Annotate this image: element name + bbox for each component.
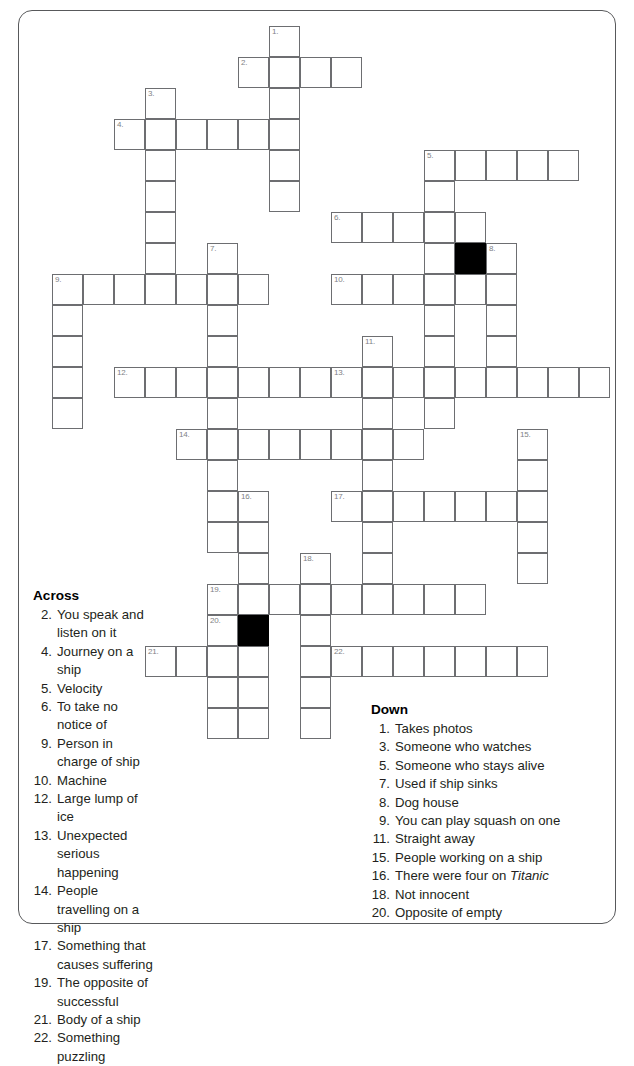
grid-cell[interactable] — [145, 119, 176, 150]
grid-cell[interactable] — [300, 429, 331, 460]
grid-cell[interactable] — [455, 367, 486, 398]
grid-cell[interactable]: 18. — [300, 553, 331, 584]
grid-cell[interactable] — [207, 336, 238, 367]
grid-cell[interactable] — [300, 584, 331, 615]
grid-cell[interactable]: 13. — [331, 367, 362, 398]
grid-cell[interactable] — [393, 584, 424, 615]
grid-cell[interactable]: 7. — [207, 243, 238, 274]
grid-cell[interactable] — [455, 212, 486, 243]
grid-cell[interactable] — [114, 274, 145, 305]
grid-cell[interactable]: 3. — [145, 88, 176, 119]
grid-cell[interactable] — [207, 119, 238, 150]
grid-cell[interactable] — [207, 522, 238, 553]
grid-cell[interactable] — [207, 491, 238, 522]
grid-cell[interactable] — [424, 646, 455, 677]
grid-cell[interactable] — [269, 57, 300, 88]
grid-cell[interactable] — [455, 584, 486, 615]
grid-cell[interactable] — [517, 646, 548, 677]
grid-cell[interactable] — [393, 212, 424, 243]
grid-cell[interactable] — [331, 57, 362, 88]
grid-cell[interactable] — [362, 646, 393, 677]
grid-cell[interactable] — [207, 429, 238, 460]
grid-cell[interactable] — [145, 150, 176, 181]
grid-cell[interactable] — [269, 88, 300, 119]
grid-cell[interactable] — [269, 181, 300, 212]
grid-cell[interactable] — [362, 367, 393, 398]
grid-cell[interactable]: 4. — [114, 119, 145, 150]
grid-cell[interactable] — [238, 553, 269, 584]
grid-cell[interactable] — [517, 553, 548, 584]
grid-cell[interactable] — [176, 274, 207, 305]
grid-cell[interactable] — [331, 429, 362, 460]
grid-cell[interactable] — [300, 677, 331, 708]
grid-cell[interactable] — [455, 150, 486, 181]
grid-cell[interactable] — [362, 274, 393, 305]
grid-cell[interactable] — [238, 367, 269, 398]
grid-cell[interactable] — [362, 460, 393, 491]
grid-cell[interactable] — [207, 367, 238, 398]
grid-cell[interactable] — [362, 491, 393, 522]
grid-cell[interactable] — [393, 491, 424, 522]
grid-cell[interactable] — [300, 615, 331, 646]
grid-cell[interactable] — [393, 274, 424, 305]
grid-cell[interactable] — [362, 212, 393, 243]
grid-cell[interactable] — [486, 646, 517, 677]
grid-cell[interactable]: 17. — [331, 491, 362, 522]
grid-cell[interactable] — [52, 336, 83, 367]
grid-cell[interactable] — [52, 367, 83, 398]
grid-cell[interactable] — [517, 522, 548, 553]
grid-cell[interactable] — [52, 305, 83, 336]
grid-cell[interactable]: 15. — [517, 429, 548, 460]
grid-cell[interactable] — [393, 367, 424, 398]
grid-cell[interactable]: 1. — [269, 26, 300, 57]
grid-cell[interactable] — [207, 274, 238, 305]
grid-cell[interactable] — [517, 460, 548, 491]
grid-cell[interactable] — [486, 150, 517, 181]
grid-cell[interactable] — [238, 274, 269, 305]
grid-cell[interactable]: 9. — [52, 274, 83, 305]
grid-cell[interactable] — [269, 150, 300, 181]
grid-cell[interactable] — [176, 367, 207, 398]
grid-cell[interactable] — [455, 646, 486, 677]
grid-cell[interactable] — [269, 367, 300, 398]
grid-cell[interactable] — [145, 243, 176, 274]
grid-cell[interactable] — [424, 274, 455, 305]
grid-cell[interactable]: 14. — [176, 429, 207, 460]
grid-cell[interactable] — [486, 305, 517, 336]
grid-cell[interactable] — [424, 491, 455, 522]
grid-cell[interactable] — [393, 646, 424, 677]
grid-cell[interactable] — [269, 429, 300, 460]
grid-cell[interactable] — [207, 460, 238, 491]
grid-cell[interactable]: 6. — [331, 212, 362, 243]
grid-cell[interactable] — [269, 119, 300, 150]
grid-cell[interactable] — [486, 274, 517, 305]
grid-cell[interactable] — [300, 708, 331, 739]
grid-cell[interactable] — [517, 150, 548, 181]
grid-cell[interactable] — [300, 57, 331, 88]
grid-cell[interactable] — [424, 181, 455, 212]
grid-cell[interactable]: 22. — [331, 646, 362, 677]
grid-cell[interactable] — [548, 150, 579, 181]
grid-cell[interactable] — [424, 305, 455, 336]
grid-cell[interactable]: 2. — [238, 57, 269, 88]
grid-cell[interactable] — [455, 274, 486, 305]
grid-cell[interactable] — [579, 367, 610, 398]
grid-cell[interactable]: 5. — [424, 150, 455, 181]
grid-cell[interactable] — [145, 274, 176, 305]
grid-cell[interactable] — [548, 367, 579, 398]
grid-cell[interactable] — [238, 119, 269, 150]
grid-cell[interactable] — [145, 367, 176, 398]
grid-cell[interactable] — [486, 491, 517, 522]
grid-cell[interactable]: 12. — [114, 367, 145, 398]
grid-cell[interactable]: 11. — [362, 336, 393, 367]
grid-cell[interactable] — [424, 212, 455, 243]
grid-cell[interactable] — [331, 584, 362, 615]
grid-cell[interactable] — [176, 119, 207, 150]
grid-cell[interactable] — [238, 429, 269, 460]
grid-cell[interactable] — [424, 243, 455, 274]
grid-cell[interactable] — [362, 553, 393, 584]
grid-cell[interactable] — [424, 398, 455, 429]
grid-cell[interactable] — [362, 429, 393, 460]
grid-cell[interactable] — [52, 398, 83, 429]
grid-cell[interactable] — [486, 367, 517, 398]
